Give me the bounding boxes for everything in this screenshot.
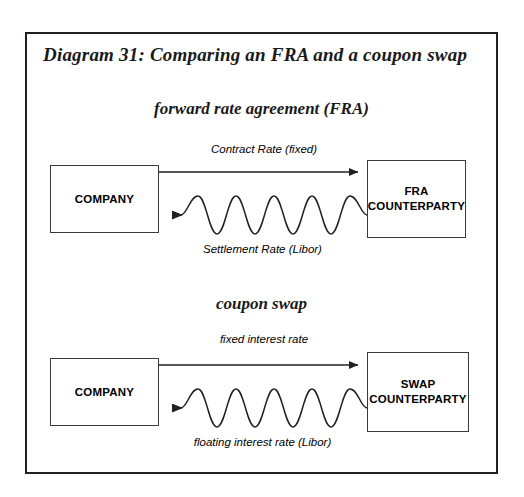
wavy-line-icon-fra (172, 196, 367, 234)
diagram-edges (0, 0, 524, 497)
diagram-figure: Diagram 31: Comparing an FRA and a coupo… (0, 0, 524, 497)
wavy-line-icon-swap (172, 389, 367, 427)
